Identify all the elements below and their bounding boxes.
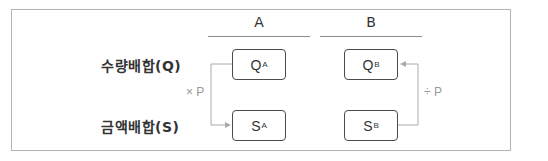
box-s-a: SA xyxy=(232,110,286,141)
box-s-a-main: S xyxy=(251,118,260,134)
multiply-arrow xyxy=(211,64,232,125)
box-q-b-main: Q xyxy=(362,57,373,73)
divide-arrow xyxy=(398,64,418,125)
box-q-b: QB xyxy=(344,49,398,80)
box-q-a-sub: A xyxy=(262,60,267,69)
box-s-b-main: S xyxy=(363,118,372,134)
multiply-p-label: × P xyxy=(186,85,204,99)
box-q-b-sub: B xyxy=(374,60,379,69)
divide-arrowhead xyxy=(400,61,406,67)
multiply-arrowhead xyxy=(225,122,231,128)
box-q-a: QA xyxy=(232,49,286,80)
box-s-b-sub: B xyxy=(374,121,379,130)
box-s-a-sub: A xyxy=(262,121,267,130)
box-s-b: SB xyxy=(344,110,398,141)
box-q-a-main: Q xyxy=(250,57,261,73)
divide-p-label: ÷ P xyxy=(424,85,442,99)
